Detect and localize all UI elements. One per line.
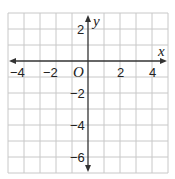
x-tick-2: 2 [117,65,124,80]
x-axis-left-arrow-icon [9,58,16,64]
y-axis-label: y [91,13,100,29]
y-axis-up-arrow-icon [85,15,91,22]
x-tick-neg4: −4 [10,65,25,80]
x-tick-neg2: −2 [43,65,58,80]
x-axis-label: x [157,43,165,59]
y-tick-neg6: −6 [70,150,85,165]
y-tick-neg2: −2 [70,86,85,101]
y-axis-down-arrow-icon [85,165,91,172]
origin-label: O [73,64,84,80]
y-tick-neg4: −4 [70,118,85,133]
x-tick-4: 4 [149,65,156,80]
y-tick-2: 2 [77,22,84,37]
coordinate-plane: x y O −4 −2 2 4 2 −2 −4 −6 [0,0,175,179]
